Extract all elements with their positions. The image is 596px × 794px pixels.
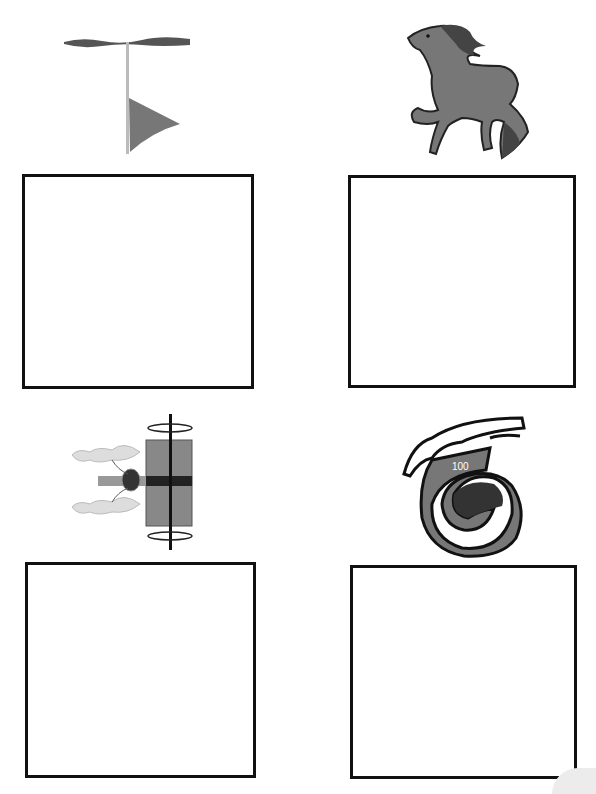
answer-box-chariot[interactable] [25,562,256,778]
chariot-icon [68,410,198,554]
answer-box-flag[interactable] [22,174,254,389]
scroll-label: 100 [452,461,469,472]
horse-icon [400,22,530,164]
hand-scroll-100-icon: 100 [402,414,530,558]
flag-icon [62,30,192,156]
answer-box-scroll[interactable] [350,565,577,779]
answer-box-horse[interactable] [348,175,576,388]
